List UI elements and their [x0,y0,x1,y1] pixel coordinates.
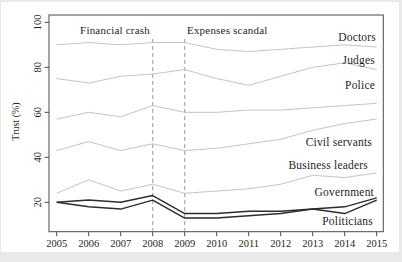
x-tick-label: 2010 [206,238,227,249]
series-label-business-leaders: Business leaders [288,159,368,171]
y-tick-label: 20 [32,197,43,208]
series-label-police: Police [345,79,375,91]
plot-box [49,15,383,232]
series-line-judges [57,63,377,86]
x-tick-label: 2015 [366,238,387,249]
y-tick-label: 40 [32,152,43,163]
series-label-government: Government [315,186,374,198]
x-tick-label: 2014 [334,238,356,249]
series-label-politicians: Politicians [322,215,373,227]
x-tick-label: 2009 [174,238,195,249]
y-axis-title: Trust (%) [10,82,21,162]
y-tick-label: 60 [32,107,43,118]
x-tick-label: 2013 [302,238,323,249]
annotation-financial-crash: Financial crash [80,24,150,36]
y-tick-label: 100 [32,14,43,30]
series-line-doctors [57,43,377,52]
x-tick-label: 2012 [270,238,291,249]
x-tick-label: 2006 [78,238,99,249]
annotation-expenses-scandal: Expenses scandal [187,24,267,36]
figure-page: 2040608010020052006200720082009201020112… [0,0,402,262]
y-tick-label: 80 [32,62,43,73]
series-label-judges: Judges [342,54,375,66]
series-label-civil-servants: Civil servants [306,136,372,148]
x-tick-label: 2005 [46,238,67,249]
series-label-doctors: Doctors [338,31,376,43]
x-tick-label: 2008 [142,238,163,249]
x-tick-label: 2011 [238,238,259,249]
series-line-police [57,103,377,119]
x-tick-label: 2007 [110,238,131,249]
